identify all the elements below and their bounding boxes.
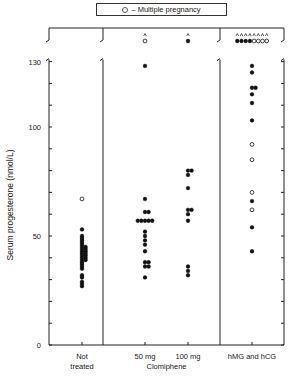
filled-data-point — [186, 269, 190, 273]
filled-data-point — [186, 173, 190, 177]
y-tick-label: 0 — [37, 341, 41, 350]
filled-data-point — [254, 86, 258, 90]
offscale-markers — [143, 34, 269, 43]
filled-data-point — [186, 212, 190, 216]
x-axis-label: hMG and hCG — [228, 352, 277, 361]
x-axis-label: 50 mg — [135, 352, 156, 361]
filled-data-point — [143, 197, 147, 201]
up-arrow-icon — [257, 34, 260, 37]
filled-data-point — [143, 210, 147, 214]
offscale-point — [248, 39, 252, 43]
filled-data-point — [250, 64, 254, 68]
filled-data-point — [190, 208, 194, 212]
filled-data-point — [250, 86, 254, 90]
x-axis-label: Not — [76, 352, 89, 361]
offscale-point — [256, 39, 260, 43]
up-arrow-icon — [249, 34, 252, 37]
group-label: Clomiphene — [146, 362, 186, 371]
up-arrow-icon — [187, 34, 190, 37]
filled-data-point — [143, 230, 147, 234]
y-tick-label: 100 — [28, 123, 41, 132]
filled-data-point — [143, 219, 147, 223]
filled-data-point — [150, 219, 154, 223]
filled-data-point — [186, 219, 190, 223]
filled-data-point — [80, 228, 84, 232]
offscale-point — [235, 39, 239, 43]
open-data-point — [80, 197, 84, 201]
filled-data-point — [140, 219, 144, 223]
offscale-point — [186, 39, 190, 43]
open-data-point — [250, 158, 254, 162]
filled-data-point — [143, 276, 147, 280]
x-axis-label: 100 mg — [175, 352, 200, 361]
plot-frame — [46, 28, 284, 345]
y-axis-ticks — [49, 62, 284, 345]
open-data-point — [250, 143, 254, 147]
up-arrow-icon — [253, 34, 256, 37]
filled-data-point — [147, 265, 151, 269]
offscale-point — [252, 39, 256, 43]
filled-data-point — [250, 119, 254, 123]
filled-data-point — [80, 267, 84, 271]
filled-data-point — [250, 249, 254, 253]
offscale-point — [143, 39, 147, 43]
up-arrow-icon — [265, 34, 268, 37]
filled-data-point — [143, 238, 147, 242]
data-points — [80, 64, 257, 288]
up-arrow-icon — [261, 34, 264, 37]
filled-data-point — [147, 219, 151, 223]
filled-data-point — [143, 260, 147, 264]
y-axis-label: Serum progesterone (nmol/L) — [5, 149, 15, 260]
filled-data-point — [136, 219, 140, 223]
up-arrow-icon — [244, 34, 247, 37]
filled-data-point — [147, 260, 151, 264]
filled-data-point — [190, 169, 194, 173]
open-data-point — [250, 191, 254, 195]
filled-data-point — [80, 284, 84, 288]
filled-data-point — [80, 276, 84, 280]
x-axis-label: treated — [70, 362, 93, 371]
filled-data-point — [143, 265, 147, 269]
filled-data-point — [250, 101, 254, 105]
filled-data-point — [250, 199, 254, 203]
filled-data-point — [143, 249, 147, 253]
filled-data-point — [147, 210, 151, 214]
up-arrow-icon — [144, 34, 147, 37]
filled-data-point — [186, 273, 190, 277]
filled-data-point — [143, 243, 147, 247]
open-data-point — [250, 208, 254, 212]
y-tick-label: 50 — [33, 232, 41, 241]
filled-data-point — [143, 64, 147, 68]
filled-data-point — [250, 225, 254, 229]
filled-data-point — [186, 186, 190, 190]
filled-data-point — [143, 234, 147, 238]
x-axis-labels: Nottreated50 mg100 mghMG and hCGClomiphe… — [70, 352, 276, 371]
up-arrow-icon — [236, 34, 239, 37]
up-arrow-icon — [240, 34, 243, 37]
y-tick-labels: 050100130 — [28, 58, 41, 350]
filled-data-point — [250, 92, 254, 96]
scatter-chart: 050100130 Serum progesterone (nmol/L) No… — [0, 0, 297, 379]
offscale-point — [261, 39, 265, 43]
filled-data-point — [186, 265, 190, 269]
filled-data-point — [84, 258, 88, 262]
filled-data-point — [250, 71, 254, 75]
offscale-point — [244, 39, 248, 43]
offscale-point — [240, 39, 244, 43]
filled-data-point — [186, 169, 190, 173]
offscale-point — [265, 39, 269, 43]
filled-data-point — [186, 208, 190, 212]
y-tick-label: 130 — [28, 58, 41, 67]
